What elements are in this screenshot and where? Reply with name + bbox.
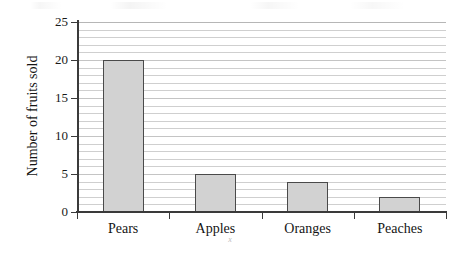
x-tick xyxy=(169,213,170,219)
bar-chart: 0510152025 PearsApplesOrangesPeaches Num… xyxy=(0,0,469,256)
x-tick xyxy=(446,213,447,219)
x-tick xyxy=(262,213,263,219)
gridline xyxy=(77,30,446,31)
gridline xyxy=(77,22,446,23)
y-tick xyxy=(71,60,77,61)
x-axis-label: Pears xyxy=(77,221,169,236)
x-tick xyxy=(77,213,78,219)
y-tick xyxy=(71,98,77,99)
gridline xyxy=(77,45,446,46)
plot-area xyxy=(77,22,446,212)
y-tick xyxy=(71,174,77,175)
y-tick xyxy=(71,136,77,137)
gridline xyxy=(77,37,446,38)
x-axis-label: Apples xyxy=(169,221,261,236)
y-tick xyxy=(71,22,77,23)
y-axis-title: Number of fruits sold xyxy=(25,36,41,196)
y-tick-label: 0 xyxy=(28,205,68,218)
x-axis-label: Oranges xyxy=(262,221,354,236)
x-axis-label: Peaches xyxy=(354,221,446,236)
bar xyxy=(287,182,328,212)
bar xyxy=(103,60,144,212)
x-tick xyxy=(354,213,355,219)
bar xyxy=(379,197,420,212)
y-axis-line xyxy=(77,20,79,213)
gridline xyxy=(77,52,446,53)
y-tick-label: 25 xyxy=(28,15,68,28)
scan-artifact xyxy=(0,2,469,9)
bar xyxy=(195,174,236,212)
x-axis-variable-label: x xyxy=(218,236,242,244)
